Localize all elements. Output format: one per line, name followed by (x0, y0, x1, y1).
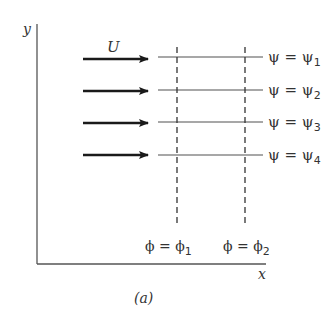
potential-labels: ϕ = ϕ1 ϕ = ϕ2 (145, 238, 270, 258)
potential-lines (177, 47, 245, 223)
streamlines (158, 57, 263, 155)
velocity-label: U (107, 38, 121, 56)
y-axis-label: y (22, 21, 32, 37)
streamline-labels: ψ = ψ1 ψ = ψ2 ψ = ψ3 ψ = ψ4 (268, 48, 321, 167)
streamline-label: ψ = ψ1 (268, 48, 321, 69)
figure-caption: (a) (134, 290, 153, 306)
flow-arrows (83, 59, 148, 155)
streamline-label: ψ = ψ4 (268, 146, 321, 167)
uniform-flow-diagram: y x U ψ = ψ1 (0, 0, 336, 321)
potential-label: ϕ = ϕ2 (223, 238, 270, 258)
potential-label: ϕ = ϕ1 (145, 238, 192, 258)
streamline-label: ψ = ψ3 (268, 113, 321, 134)
streamline-label: ψ = ψ2 (268, 81, 321, 102)
x-axis-label: x (258, 266, 266, 282)
